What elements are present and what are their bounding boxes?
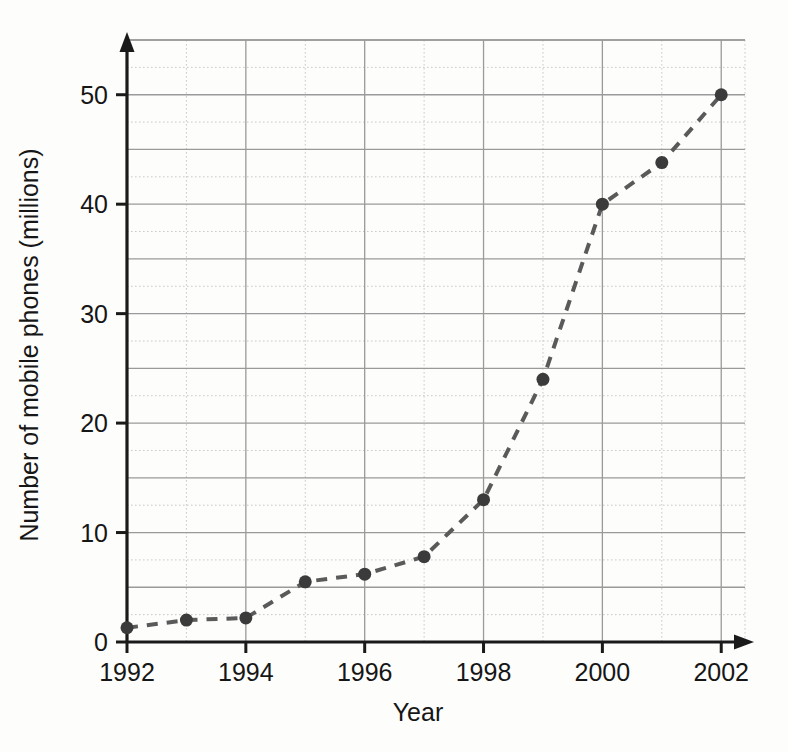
y-axis-arrow-icon bbox=[120, 32, 135, 52]
x-axis-tick-label: 2000 bbox=[575, 658, 631, 686]
data-point-marker bbox=[121, 621, 134, 634]
axes bbox=[120, 32, 755, 650]
chart-container: 01020304050 199219941996199820002002 Yea… bbox=[0, 0, 788, 752]
data-point-marker bbox=[358, 568, 371, 581]
y-axis-tick-label: 30 bbox=[80, 300, 108, 328]
data-point-marker bbox=[715, 88, 728, 101]
y-axis-tick-label: 20 bbox=[80, 409, 108, 437]
x-axis-ticks bbox=[127, 642, 721, 653]
data-point-marker bbox=[477, 493, 490, 506]
x-axis-tick-label: 2002 bbox=[693, 658, 749, 686]
y-axis-tick-label: 40 bbox=[80, 190, 108, 218]
data-point-marker bbox=[418, 550, 431, 563]
y-axis-tick-label: 10 bbox=[80, 519, 108, 547]
y-axis-title: Number of mobile phones (millions) bbox=[15, 148, 43, 541]
minor-gridlines bbox=[127, 40, 745, 642]
data-point-marker bbox=[536, 373, 549, 386]
x-axis-arrow-icon bbox=[734, 635, 754, 650]
line-chart: 01020304050 199219941996199820002002 Yea… bbox=[0, 0, 788, 752]
x-axis-tick-label: 1998 bbox=[456, 658, 512, 686]
data-point-marker bbox=[655, 156, 668, 169]
y-axis-tick-labels: 01020304050 bbox=[80, 81, 108, 656]
x-axis-tick-label: 1994 bbox=[218, 658, 274, 686]
data-point-marker bbox=[180, 614, 193, 627]
x-axis-title: Year bbox=[393, 698, 444, 726]
y-axis-ticks bbox=[116, 95, 127, 642]
x-axis-tick-label: 1992 bbox=[99, 658, 155, 686]
data-point-marker bbox=[299, 575, 312, 588]
y-axis-tick-label: 50 bbox=[80, 81, 108, 109]
data-point-marker bbox=[239, 611, 252, 624]
x-axis-tick-label: 1996 bbox=[337, 658, 393, 686]
data-point-marker bbox=[596, 198, 609, 211]
y-axis-tick-label: 0 bbox=[94, 628, 108, 656]
x-axis-tick-labels: 199219941996199820002002 bbox=[99, 658, 749, 686]
